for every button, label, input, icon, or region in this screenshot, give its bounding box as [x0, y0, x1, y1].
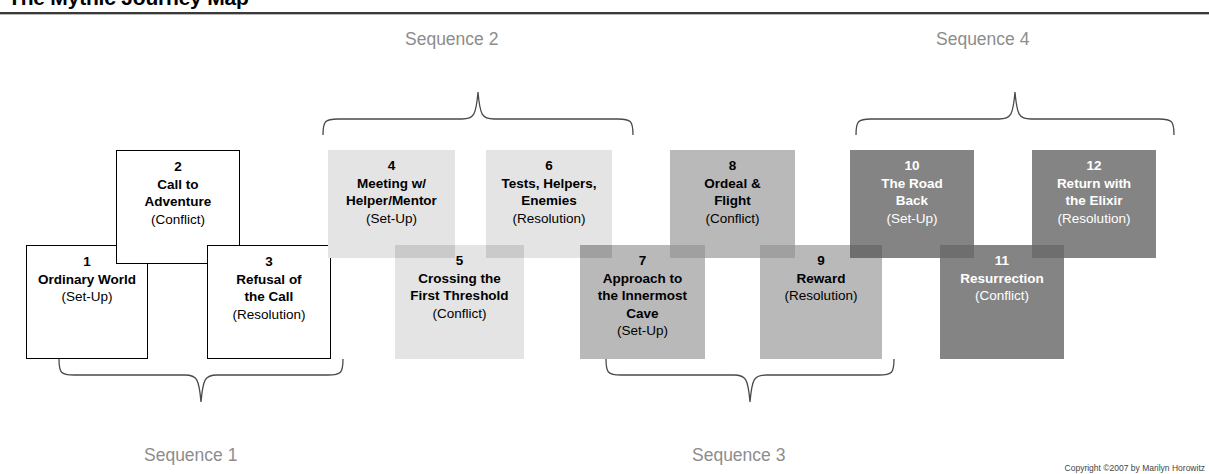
- overlap-6-7: [580, 245, 612, 258]
- stage-function: (Conflict): [940, 287, 1064, 305]
- stage-name-line2: First Threshold: [395, 287, 524, 305]
- stage-box-7[interactable]: 7 Approach to the InnermostCave (Set-Up): [580, 245, 705, 359]
- stage-function: (Resolution): [208, 306, 330, 324]
- overlap-4-5: [395, 245, 455, 258]
- overlap-11-12: [1032, 245, 1064, 258]
- sequence-brace-2: [322, 88, 634, 136]
- stage-number: 3: [208, 253, 330, 271]
- overlap-5-6: [486, 245, 524, 258]
- stage-name: Approach to: [580, 270, 705, 288]
- stage-function: (Conflict): [395, 305, 524, 323]
- stage-name: Refusal of: [208, 271, 330, 289]
- stage-name-line2: the Elixir: [1032, 192, 1156, 210]
- stage-function: (Resolution): [1032, 210, 1156, 228]
- stage-box-3[interactable]: 3 Refusal of the Call (Resolution): [207, 245, 331, 359]
- stage-name-line2: Flight: [670, 192, 795, 210]
- overlap-9-10: [850, 245, 882, 258]
- stage-box-4[interactable]: 4 Meeting w/ Helper/Mentor (Set-Up): [328, 150, 455, 258]
- mythic-journey-diagram: Sequence 2 Sequence 4 1 Ordinary World (…: [0, 0, 1209, 474]
- stage-function: (Set-Up): [27, 288, 147, 306]
- stage-name: Call to: [117, 176, 239, 194]
- overlap-7-8: [670, 245, 705, 258]
- stage-number: 10: [850, 157, 974, 175]
- stage-function: (Set-Up): [850, 210, 974, 228]
- sequence-brace-3: [605, 358, 895, 406]
- stage-number: 6: [486, 157, 612, 175]
- stage-number: 8: [670, 157, 795, 175]
- stage-name-line2: Enemies: [486, 192, 612, 210]
- stage-number: 2: [117, 158, 239, 176]
- stage-name-line2: the Call: [208, 288, 330, 306]
- stage-name: Meeting w/: [328, 175, 455, 193]
- stage-name: Tests, Helpers,: [486, 175, 612, 193]
- stage-box-8[interactable]: 8 Ordeal & Flight (Conflict): [670, 150, 795, 258]
- stage-name-line2: Helper/Mentor: [328, 192, 455, 210]
- stage-function: (Conflict): [117, 211, 239, 229]
- sequence-label-2: Sequence 2: [405, 29, 498, 50]
- stage-box-5[interactable]: 5 Crossing the First Threshold (Conflict…: [395, 245, 524, 359]
- stage-name: Ordeal &: [670, 175, 795, 193]
- stage-number: 4: [328, 157, 455, 175]
- stage-name: Reward: [760, 270, 882, 288]
- sequence-label-4: Sequence 4: [936, 29, 1029, 50]
- stage-name: Resurrection: [940, 270, 1064, 288]
- stage-box-6[interactable]: 6 Tests, Helpers, Enemies (Resolution): [486, 150, 612, 258]
- sequence-label-3: Sequence 3: [692, 445, 785, 466]
- sequence-label-1: Sequence 1: [144, 445, 237, 466]
- stage-function: (Resolution): [486, 210, 612, 228]
- stage-name-line2: Adventure: [117, 193, 239, 211]
- stage-function: (Resolution): [760, 287, 882, 305]
- overlap-10-11: [940, 245, 974, 258]
- stage-number: 12: [1032, 157, 1156, 175]
- stage-name: The Road: [850, 175, 974, 193]
- stage-box-12[interactable]: 12 Return with the Elixir (Resolution): [1032, 150, 1156, 258]
- stage-name-line2: the InnermostCave: [580, 287, 705, 322]
- stage-function: (Set-Up): [580, 322, 705, 340]
- copyright-notice: Copyright ©2007 by Marilyn Horowitz: [1065, 463, 1205, 473]
- sequence-brace-4: [855, 88, 1175, 136]
- stage-box-11[interactable]: 11 Resurrection (Conflict): [940, 245, 1064, 359]
- stage-name: Ordinary World: [27, 271, 147, 289]
- overlap-8-9: [760, 245, 795, 258]
- stage-function: (Set-Up): [328, 210, 455, 228]
- stage-name: Return with: [1032, 175, 1156, 193]
- stage-function: (Conflict): [670, 210, 795, 228]
- stage-box-9[interactable]: 9 Reward (Resolution): [760, 245, 882, 359]
- sequence-brace-1: [58, 358, 344, 406]
- stage-name: Crossing the: [395, 270, 524, 288]
- stage-box-10[interactable]: 10 The Road Back (Set-Up): [850, 150, 974, 258]
- stage-name-line2: Back: [850, 192, 974, 210]
